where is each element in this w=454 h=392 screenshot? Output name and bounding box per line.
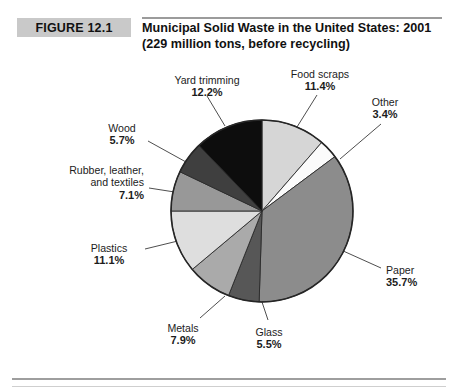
slice-label-paper-pct: 35.7% [386,276,448,288]
footer-divider-secondary [12,386,446,387]
slice-label-yard-trimming-name: Yard trimming [174,74,239,86]
slice-label-rubber-name-line2: and textiles [90,176,144,188]
slice-label-rubber: Rubber, leather, and textiles 7.1% [36,164,144,201]
slice-label-metals-name: Metals [167,322,198,334]
slice-label-food-scraps-pct: 11.4% [272,80,368,92]
slice-label-plastics-name: Plastics [91,242,128,254]
figure-container: FIGURE 12.1 Municipal Solid Waste in the… [0,0,454,392]
slice-label-paper: Paper 35.7% [386,264,448,289]
pie-slices [171,120,353,302]
slice-label-paper-name: Paper [386,264,414,276]
leader-line-metals [200,296,225,318]
footer-divider [12,378,446,380]
slice-label-rubber-pct: 7.1% [36,189,144,201]
slice-label-other-name: Other [372,96,399,108]
slice-label-glass: Glass 5.5% [238,326,300,351]
leader-line-paper [341,250,381,268]
slice-label-other: Other 3.4% [354,96,416,121]
slice-label-food-scraps-name: Food scraps [291,68,349,80]
slice-label-glass-name: Glass [255,326,282,338]
leader-line-wood [148,141,186,162]
slice-label-food-scraps: Food scraps 11.4% [272,68,368,93]
slice-label-other-pct: 3.4% [354,108,416,120]
slice-label-wood: Wood 5.7% [98,122,146,147]
leader-line-food-scraps [297,95,317,127]
slice-label-plastics-pct: 11.1% [76,254,142,266]
leader-line-glass [262,302,268,320]
slice-label-rubber-name-line1: Rubber, leather, [69,164,144,176]
slice-label-wood-name: Wood [108,122,135,134]
slice-label-metals: Metals 7.9% [152,322,214,347]
slice-label-metals-pct: 7.9% [152,334,214,346]
slice-label-glass-pct: 5.5% [238,338,300,350]
slice-label-plastics: Plastics 11.1% [76,242,142,267]
leader-line-other [340,124,381,159]
slice-label-wood-pct: 5.7% [98,134,146,146]
leader-line-yard-trimming [207,96,225,126]
slice-label-yard-trimming-pct: 12.2% [148,86,266,98]
slice-label-yard-trimming: Yard trimming 12.2% [148,74,266,99]
